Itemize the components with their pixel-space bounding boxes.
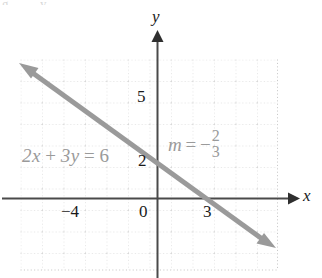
y-tick-label-2: 2 [138, 152, 147, 169]
slope-variable: m [168, 134, 182, 155]
y-axis-label: y [152, 8, 160, 25]
equation-constant: 6 [100, 145, 110, 166]
x-tick-label-minus-4: −4 [61, 203, 79, 220]
equation-plus-sign: + [41, 145, 61, 166]
equation-annotation: 2x + 3y = 6 [22, 146, 110, 165]
x-tick-label-3: 3 [203, 203, 212, 220]
slope-fraction: 23 [212, 128, 220, 161]
slope-denominator: 3 [212, 144, 220, 160]
slope-negative-sign: − [200, 134, 211, 155]
coordinate-plane [0, 0, 322, 278]
graph-figure: g y y x 5 2 −4 0 3 [0, 0, 322, 278]
slope-equals-sign: = [182, 134, 200, 155]
slope-annotation: m = −23 [168, 128, 220, 161]
slope-numerator: 2 [212, 128, 220, 144]
x-axis-label: x [303, 187, 311, 204]
x-tick-label-0: 0 [139, 203, 148, 220]
y-tick-label-5: 5 [137, 88, 146, 105]
equation-equals-sign: = [80, 145, 100, 166]
equation-term-x: 2x [22, 145, 41, 166]
equation-term-y: 3y [61, 145, 80, 166]
